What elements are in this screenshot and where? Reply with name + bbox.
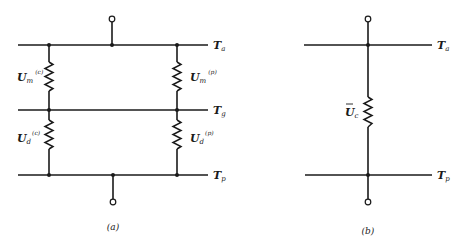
resistor-uc-icon [364,97,372,127]
label-tp: Tp [437,169,450,183]
junction-dot [175,173,179,177]
label-ta: Ta [213,39,225,53]
panel-b: Ta Tp Uc (b) [304,16,450,236]
label-ta: Ta [437,39,449,53]
caption-a: (a) [107,222,120,232]
junction-dot [111,173,115,177]
junction-dot [366,173,370,177]
junction-dot [175,108,179,112]
junction-dot [47,108,51,112]
resistor-ud-c-icon [45,120,53,149]
resistor-um-c-icon [45,62,53,91]
resistor-ud-p-icon [173,120,181,149]
bottom-terminal-icon [110,199,116,205]
junction-dot [47,43,51,47]
label-tg: Tg [213,104,226,118]
junction-dot [175,43,179,47]
panel-a: Ta Tg Tp Um(c) Um(p) Ud(c) Ud(p) (a) [17,16,226,232]
junction-dot [366,43,370,47]
label-uc: Uc [345,106,359,120]
label-ud-p: Ud(p) [190,129,214,146]
label-um-p: Um(p) [190,68,217,85]
bottom-terminal-icon [365,199,371,205]
junction-dot [110,43,114,47]
label-ud-c: Ud(c) [17,129,41,146]
resistor-um-p-icon [173,62,181,91]
junction-dot [47,173,51,177]
top-terminal-icon [365,16,371,22]
thermal-network-diagram: Ta Tg Tp Um(c) Um(p) Ud(c) Ud(p) (a) Ta … [0,0,460,239]
label-um-c: Um(c) [17,68,44,85]
caption-b: (b) [362,226,375,236]
top-terminal-icon [109,16,115,22]
label-tp: Tp [213,169,226,183]
